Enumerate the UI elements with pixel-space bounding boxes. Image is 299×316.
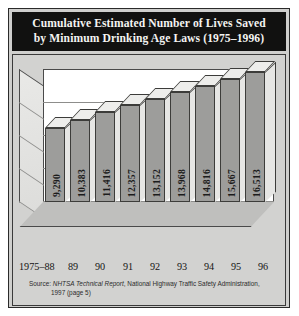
source-note: Source: NHTSA Technical Report, National…: [29, 279, 273, 297]
bar-2: 10,383: [70, 120, 90, 202]
bar-value-wrap: 9,290: [46, 137, 65, 197]
x-tick-label-3: 90: [95, 261, 105, 272]
chart-title: Cumulative Estimated Number of Lives Sav…: [12, 12, 286, 51]
bar-value-label: 13,968: [176, 169, 187, 197]
source-prefix: Source:: [29, 280, 53, 287]
x-tick-label-9: 96: [258, 261, 268, 272]
x-tick-label-6: 93: [177, 261, 187, 272]
plot-area: 9,290 10,383: [19, 69, 277, 259]
title-line-1: Cumulative Estimated Number of Lives Sav…: [32, 17, 266, 32]
bar-9: 16,513: [245, 72, 265, 202]
bar-front-face: 13,968: [170, 92, 190, 202]
bar-value-wrap: 11,416: [96, 137, 115, 197]
x-axis-labels: 1975–88 89 90 91 92 93 94 95 96: [19, 261, 281, 275]
title-line-2: by Minimum Drinking Age Laws (1975–1996): [34, 32, 264, 47]
bar-value-label: 16,513: [251, 169, 262, 197]
bar-6: 13,968: [170, 92, 190, 202]
x-tick-label-1: 1975–88: [19, 261, 55, 272]
bar-value-wrap: 10,383: [71, 137, 90, 197]
bar-5: 13,152: [145, 99, 165, 202]
bar-front-face: 14,816: [195, 86, 215, 202]
bar-value-wrap: 15,667: [221, 137, 240, 197]
x-tick-label-2: 89: [68, 261, 78, 272]
bar-front-face: 10,383: [70, 120, 90, 202]
source-report-title: NHTSA Technical Report: [53, 280, 124, 287]
source-rest: , National Highway Traffic Safety Admini…: [124, 280, 260, 287]
bar-1: 9,290: [45, 128, 65, 202]
bar-value-label: 13,152: [151, 169, 162, 197]
bar-value-wrap: 13,968: [171, 137, 190, 197]
source-line-2: 1997 (page 5): [51, 288, 273, 297]
chart-panel: 9,290 10,383: [12, 54, 286, 306]
bar-8: 15,667: [220, 79, 240, 202]
x-tick-label-8: 95: [231, 261, 241, 272]
bar-value-label: 12,357: [126, 169, 137, 197]
bar-value-label: 11,416: [101, 169, 112, 197]
bar-3: 11,416: [95, 112, 115, 202]
bar-front-face: 9,290: [45, 128, 65, 202]
bar-front-face: 13,152: [145, 99, 165, 202]
bar-front-face: 15,667: [220, 79, 240, 202]
bar-front-face: 11,416: [95, 112, 115, 202]
bar-value-wrap: 16,513: [246, 137, 265, 197]
bar-value-label: 14,816: [201, 169, 212, 197]
x-tick-label-7: 94: [204, 261, 214, 272]
bar-4: 12,357: [120, 105, 140, 202]
bar-value-wrap: 14,816: [196, 137, 215, 197]
bar-side-face: [265, 62, 276, 202]
bar-value-label: 9,290: [51, 174, 62, 197]
bar-7: 14,816: [195, 86, 215, 202]
bar-front-face: 12,357: [120, 105, 140, 202]
x-tick-label-5: 92: [150, 261, 160, 272]
bar-series: 9,290 10,383: [43, 69, 274, 227]
bar-value-wrap: 12,357: [121, 137, 140, 197]
bar-value-wrap: 13,152: [146, 137, 165, 197]
bar-value-label: 15,667: [226, 169, 237, 197]
x-tick-label-4: 91: [123, 261, 133, 272]
chart-figure: Cumulative Estimated Number of Lives Sav…: [8, 8, 290, 308]
bar-value-label: 10,383: [76, 169, 87, 197]
bar-front-face: 16,513: [245, 72, 265, 202]
